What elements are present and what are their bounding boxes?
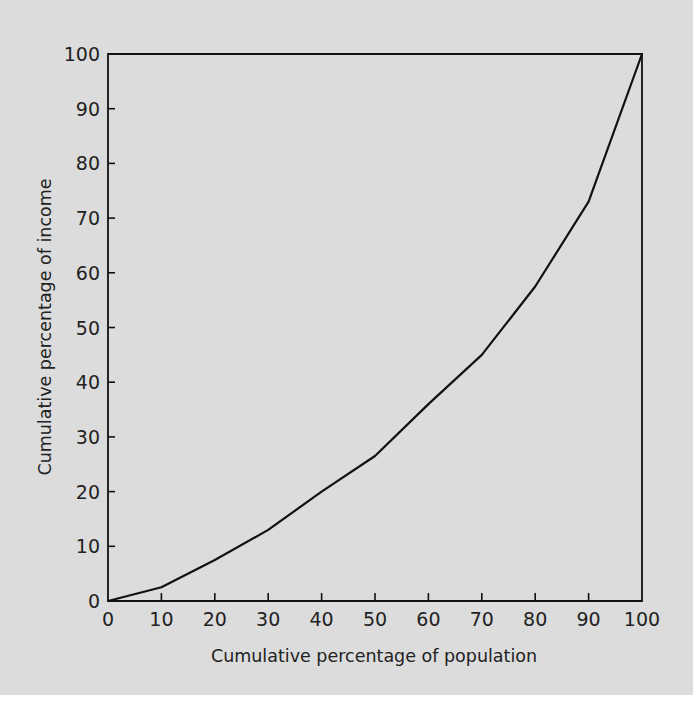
y-tick-label: 20 bbox=[76, 481, 100, 503]
x-axis-ticks: 0102030405060708090100 bbox=[102, 593, 660, 630]
x-tick-label: 40 bbox=[310, 608, 334, 630]
y-tick-label: 100 bbox=[64, 43, 100, 65]
x-tick-label: 10 bbox=[149, 608, 173, 630]
y-tick-label: 70 bbox=[76, 207, 100, 229]
y-tick-label: 50 bbox=[76, 317, 100, 339]
y-tick-label: 0 bbox=[88, 590, 100, 612]
lorenz-curve-chart: 0102030405060708090100 01020304050607080… bbox=[0, 0, 693, 705]
x-tick-label: 70 bbox=[470, 608, 494, 630]
y-tick-label: 90 bbox=[76, 98, 100, 120]
chart-background: 0102030405060708090100 01020304050607080… bbox=[0, 0, 693, 695]
y-tick-label: 80 bbox=[76, 152, 100, 174]
y-tick-label: 10 bbox=[76, 535, 100, 557]
y-tick-label: 60 bbox=[76, 262, 100, 284]
y-tick-label: 40 bbox=[76, 371, 100, 393]
x-tick-label: 20 bbox=[203, 608, 227, 630]
axes-box bbox=[108, 54, 642, 601]
plot-frame bbox=[108, 54, 642, 601]
x-tick-label: 60 bbox=[416, 608, 440, 630]
x-tick-label: 80 bbox=[523, 608, 547, 630]
x-tick-label: 30 bbox=[256, 608, 280, 630]
lorenz-curve-line bbox=[108, 54, 642, 601]
x-axis-label: Cumulative percentage of population bbox=[211, 646, 537, 666]
x-tick-label: 90 bbox=[577, 608, 601, 630]
x-tick-label: 0 bbox=[102, 608, 114, 630]
x-tick-label: 50 bbox=[363, 608, 387, 630]
x-tick-label: 100 bbox=[624, 608, 660, 630]
y-tick-label: 30 bbox=[76, 426, 100, 448]
y-axis-label: Cumulative percentage of income bbox=[35, 178, 55, 475]
